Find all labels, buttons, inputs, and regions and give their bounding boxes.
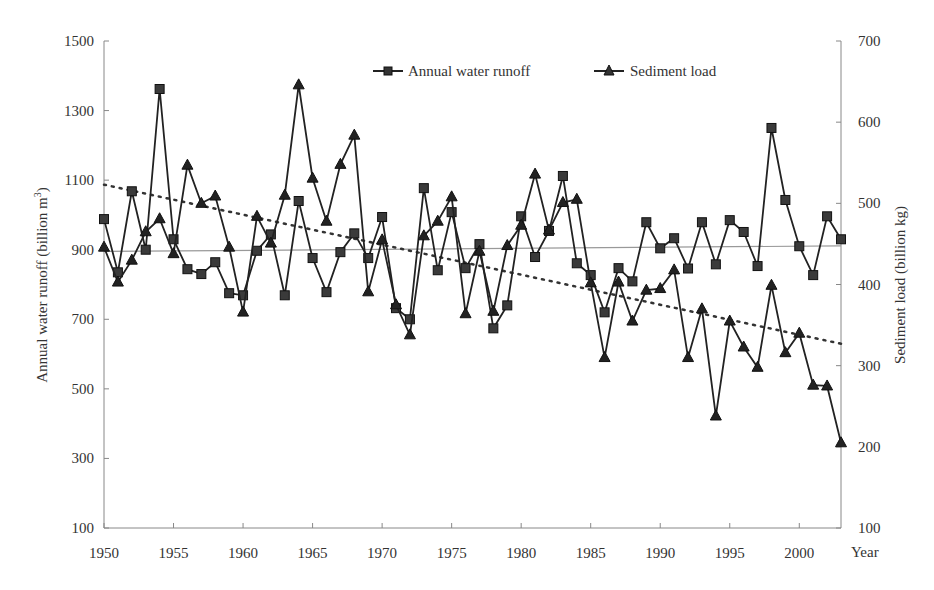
square-marker-icon [753,262,762,271]
square-marker-icon [350,229,359,238]
triangle-marker-icon [627,315,638,325]
square-marker-icon [225,289,234,298]
triangle-marker-icon [808,379,819,389]
square-marker-icon [725,216,734,225]
y-tick-right: 100 [858,520,881,536]
triangle-marker-icon [836,437,847,447]
square-marker-icon [419,184,428,193]
y-tick-right: 200 [858,439,881,455]
square-marker-icon [308,254,317,263]
square-marker-icon [739,227,748,236]
triangle-marker-icon [710,410,721,420]
square-marker-icon [614,264,623,273]
square-marker-icon [711,260,720,269]
square-marker-icon [531,253,540,262]
square-marker-icon [280,291,289,300]
square-marker-icon [767,123,776,132]
x-tick: 2000 [784,545,814,561]
triangle-marker-icon [683,352,694,362]
square-marker-icon [684,264,693,273]
svg-text:Sediment load: Sediment load [630,63,717,79]
x-tick: 1970 [367,545,397,561]
triangle-marker-icon [224,241,235,251]
triangle-marker-icon [307,172,318,182]
y-tick-left: 1500 [64,33,94,49]
square-marker-icon [183,265,192,274]
y-tick-right: 500 [858,195,881,211]
square-marker-icon [378,213,387,222]
legend-item-runoff: Annual water runoff [373,63,530,79]
triangle-marker-icon [279,189,290,199]
y-tick-right: 700 [858,33,881,49]
x-tick: 1985 [576,545,606,561]
triangle-marker-icon [251,210,262,220]
x-axis-label: Year [851,544,879,560]
x-tick: 1950 [89,545,119,561]
square-marker-icon [823,212,832,221]
triangle-marker-icon [404,329,415,339]
triangle-marker-icon [599,352,610,362]
triangle-marker-icon [99,241,110,251]
y-tick-left: 700 [72,311,95,327]
square-marker-icon [600,308,609,317]
square-marker-icon [697,218,706,227]
square-marker-icon [670,234,679,243]
square-marker-icon [211,258,220,267]
triangle-marker-icon [571,193,582,203]
square-marker-icon [252,246,261,255]
y-tick-right: 300 [858,358,881,374]
x-tick: 1960 [228,545,258,561]
triangle-marker-icon [446,191,457,201]
x-tick: 1995 [715,545,745,561]
square-marker-icon [628,277,637,286]
y-tick-left: 300 [72,450,95,466]
y-tick-left: 100 [72,520,95,536]
triangle-marker-icon [530,168,541,178]
x-tick: 1980 [506,545,536,561]
triangle-marker-icon [210,190,221,200]
y-tick-left: 900 [72,242,95,258]
y-tick-right: 600 [858,114,881,130]
square-marker-icon [572,259,581,268]
triangle-marker-icon [126,254,137,264]
square-marker-icon [294,197,303,206]
triangle-marker-icon [196,197,207,207]
triangle-marker-icon [238,306,249,316]
triangle-marker-icon [349,129,360,139]
triangle-marker-icon [696,303,707,313]
square-marker-icon [336,248,345,257]
square-marker-icon [489,324,498,333]
triangle-marker-icon [335,158,346,168]
triangle-marker-icon [738,341,749,351]
triangle-marker-icon [794,327,805,337]
square-marker-icon [447,208,456,217]
y-tick-right: 400 [858,277,881,293]
triangle-marker-icon [460,308,471,318]
triangle-marker-icon [363,286,374,296]
square-marker-icon [795,242,804,251]
square-marker-icon [656,244,665,253]
square-marker-icon [809,271,818,280]
square-marker-icon [197,270,206,279]
triangle-marker-icon [321,215,332,225]
triangle-marker-icon [669,264,680,274]
legend: Annual water runoff Sediment load [373,63,717,79]
square-marker-icon [322,288,331,297]
square-marker-icon [155,85,164,94]
square-marker-icon [503,301,512,310]
y-tick-left: 1300 [64,103,94,119]
x-tick: 1965 [298,545,328,561]
triangle-marker-icon [182,159,193,169]
triangle-marker-icon [432,215,443,225]
x-tick: 1990 [645,545,675,561]
tick-labels: 1003005007009001100130015001002003004005… [64,33,881,561]
square-marker-icon [837,235,846,244]
y-tick-left: 500 [72,381,95,397]
y-axis-right-label: Sediment load (billion kg) [892,206,909,364]
y-axis-left-label: Annual water runoff (billion m3) [32,187,51,383]
square-marker-icon [100,215,109,224]
triangle-marker-icon [724,315,735,325]
square-marker-icon [141,245,150,254]
square-marker-icon [433,266,442,275]
square-marker-icon [461,264,470,273]
